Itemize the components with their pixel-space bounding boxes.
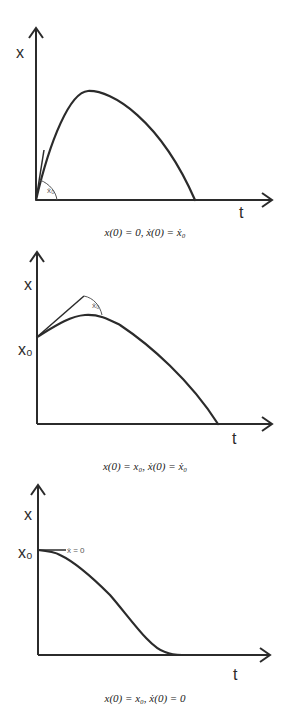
panel-drop-from-rest: x x₀ t ẋ = 0 x(0) = x₀, ẋ(0) = 0 [0,480,290,709]
caption: x(0) = x₀, ẋ(0) = 0 [104,692,186,705]
x-axis [36,193,272,207]
y-axis [29,28,43,200]
tangent-label: ẋ₀ [92,301,99,310]
panel-ballistic-from-x0: x x₀ t ẋ₀ x(0) = x₀, ẋ(0) = ẋ₀ [0,240,290,480]
y-tick-label: x₀ [18,544,33,561]
y-axis-label: x [16,44,24,61]
trajectory-curve [36,91,195,200]
tangent-label: ẋ = 0 [67,546,85,555]
tangent-label: ẋ₀ [47,186,54,195]
x-axis-label: t [232,430,237,447]
y-axis [31,485,45,655]
y-tick-label: x₀ [18,341,33,358]
plot-1: x t ẋ₀ x(0) = 0, ẋ(0) = ẋ₀ [0,0,290,240]
plot-3: x x₀ t ẋ = 0 x(0) = x₀, ẋ(0) = 0 [0,480,290,709]
x-axis [37,417,272,431]
x-axis-label: t [239,204,244,221]
plot-2: x x₀ t ẋ₀ x(0) = x₀, ẋ(0) = ẋ₀ [0,240,290,480]
caption: x(0) = 0, ẋ(0) = ẋ₀ [104,226,186,239]
trajectory-curve [38,550,182,655]
panel-ballistic-from-zero: x t ẋ₀ x(0) = 0, ẋ(0) = ẋ₀ [0,0,290,240]
x-axis-label: t [233,666,238,683]
trajectory-curve [37,315,218,424]
x-axis [38,648,270,662]
y-axis-label: x [24,276,32,293]
caption: x(0) = x₀, ẋ(0) = ẋ₀ [102,460,187,473]
y-axis-label: x [24,506,32,523]
